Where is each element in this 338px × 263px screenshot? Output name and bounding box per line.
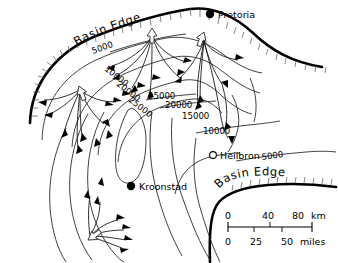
scale-tick-miles-25: 25 [250, 236, 262, 247]
scale-unit-km: km [311, 210, 326, 221]
contour-label: 15000 [182, 111, 209, 121]
city-marker-filled [127, 182, 135, 190]
city-kroonstad[interactable]: Kroonstad [127, 181, 187, 192]
city-label: Kroonstad [139, 181, 187, 192]
map-canvas: 5000 10000 20000 25000 25000 20000 15000… [0, 0, 338, 263]
scale-tick-miles-50: 50 [281, 236, 293, 247]
contour-label: 5000 [261, 149, 284, 162]
city-marker-open [210, 152, 217, 159]
contour-label: 10000 [203, 126, 230, 136]
scale-tick-miles-0: 0 [225, 236, 231, 247]
isopach-map: 5000 10000 20000 25000 25000 20000 15000… [0, 0, 338, 263]
scale-tick-km-40: 40 [262, 210, 274, 221]
scale-tick-km-0: 0 [225, 210, 231, 221]
city-marker-filled [206, 10, 214, 18]
city-label: Pretoria [218, 9, 255, 20]
scale-tick-km-80: 80 [292, 210, 304, 221]
scale-unit-miles: miles [300, 236, 325, 247]
city-label: Heilbron [220, 150, 260, 161]
scale-bar: 0 40 80 km 0 25 50 miles [225, 210, 326, 247]
contour-label: 20000 [165, 100, 192, 110]
